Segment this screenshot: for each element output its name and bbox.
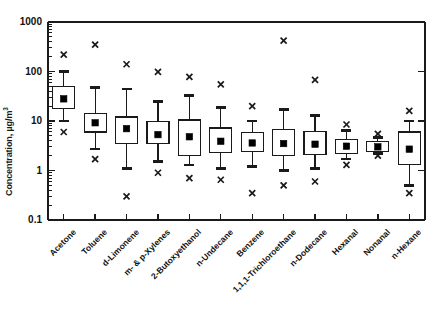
outlier-marker xyxy=(124,193,130,199)
outlier-marker xyxy=(312,178,318,184)
outlier-marker xyxy=(61,129,67,135)
median-marker xyxy=(186,134,192,140)
y-axis-tick-label: 1 xyxy=(0,166,42,176)
outlier-marker xyxy=(124,61,130,67)
y-axis-tick-label: 10 xyxy=(0,116,42,126)
median-marker xyxy=(61,96,67,102)
outlier-marker xyxy=(281,182,287,188)
outlier-marker xyxy=(186,74,192,80)
y-axis-tick-label: 1000 xyxy=(0,17,42,27)
y-axis-tick-label: 0.1 xyxy=(0,215,42,225)
outlier-marker xyxy=(343,162,349,168)
outlier-marker xyxy=(92,42,98,48)
outlier-marker xyxy=(61,52,67,58)
outlier-marker xyxy=(155,69,161,75)
median-marker xyxy=(343,143,349,149)
y-axis-label-exponent: 3 xyxy=(2,107,9,111)
outlier-marker xyxy=(249,103,255,109)
outlier-marker xyxy=(218,177,224,183)
outlier-marker xyxy=(343,121,349,127)
outlier-marker xyxy=(92,156,98,162)
median-marker xyxy=(375,144,381,150)
median-marker xyxy=(92,120,98,126)
outlier-marker xyxy=(186,175,192,181)
outlier-marker xyxy=(375,131,381,137)
y-axis-tick-label: 100 xyxy=(0,67,42,77)
median-marker xyxy=(312,141,318,147)
median-marker xyxy=(280,140,286,146)
outlier-marker xyxy=(249,190,255,196)
outlier-marker xyxy=(406,108,412,114)
box-plot-figure: Concentration, µg/m3 10001001010.1 Aceto… xyxy=(0,0,439,324)
outlier-marker xyxy=(406,190,412,196)
outlier-marker xyxy=(218,81,224,87)
median-marker xyxy=(155,131,161,137)
outlier-marker xyxy=(281,38,287,44)
outlier-marker xyxy=(312,77,318,83)
outlier-marker xyxy=(155,170,161,176)
median-marker xyxy=(218,138,224,144)
median-marker xyxy=(249,140,255,146)
median-marker xyxy=(123,125,129,131)
median-marker xyxy=(406,146,412,152)
